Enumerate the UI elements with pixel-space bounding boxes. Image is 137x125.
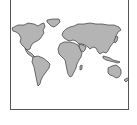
- new-zealand: [124, 78, 129, 82]
- north-america: [12, 23, 45, 50]
- greenland: [47, 19, 60, 27]
- indonesia: [103, 56, 120, 63]
- africa: [58, 42, 82, 77]
- south-america: [32, 56, 50, 86]
- world-map-icon: [0, 0, 137, 125]
- central-america: [25, 48, 35, 58]
- madagascar: [80, 65, 82, 70]
- australia: [108, 65, 121, 78]
